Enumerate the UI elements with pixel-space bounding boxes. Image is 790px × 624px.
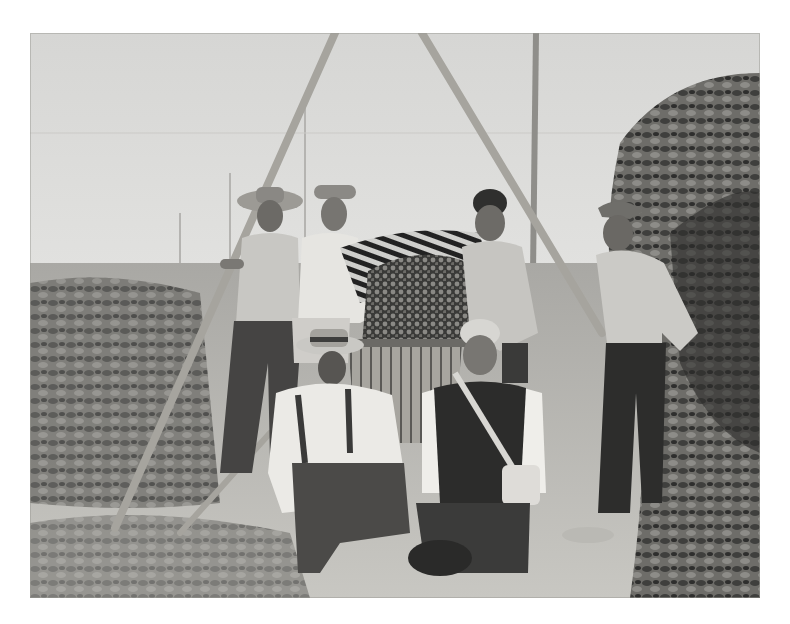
tall-pole — [533, 33, 536, 273]
shoulder-bag — [502, 465, 540, 505]
left-foliage — [30, 277, 220, 508]
hop-field-photograph: Seven men posing in a hop field with a t… — [30, 33, 760, 598]
basket-rim — [346, 339, 466, 347]
dropped-hat — [408, 540, 472, 576]
